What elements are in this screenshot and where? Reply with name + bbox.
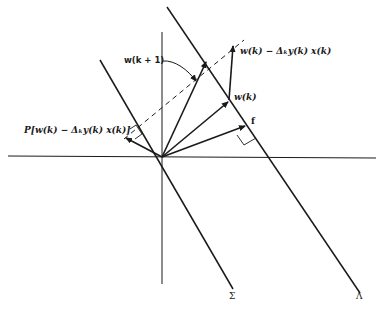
horizontal-axis (8, 156, 376, 158)
label-lambda: Λ (356, 292, 363, 301)
label-projection: P[w(k) − Δₖy(k) x(k)] (24, 126, 131, 135)
vector-w-k (162, 102, 228, 157)
label-w-k-minus-correction: w(k) − Δₖy(k) x(k) (240, 47, 331, 56)
label-w-k: w(k) (234, 93, 257, 102)
label-f: f (251, 117, 255, 126)
vector-correction (229, 46, 233, 100)
geometric-projection-diagram: w(k + 1) w(k) − Δₖy(k) x(k) w(k) f P[w(k… (0, 0, 376, 309)
right-angle-marker-f (237, 135, 256, 145)
w-k-plus-1-pointer (163, 61, 196, 81)
vector-projection (126, 138, 162, 157)
sigma-line (100, 60, 233, 289)
label-w-k-plus-1: w(k + 1) (124, 56, 164, 65)
label-sigma: Σ (229, 292, 235, 301)
